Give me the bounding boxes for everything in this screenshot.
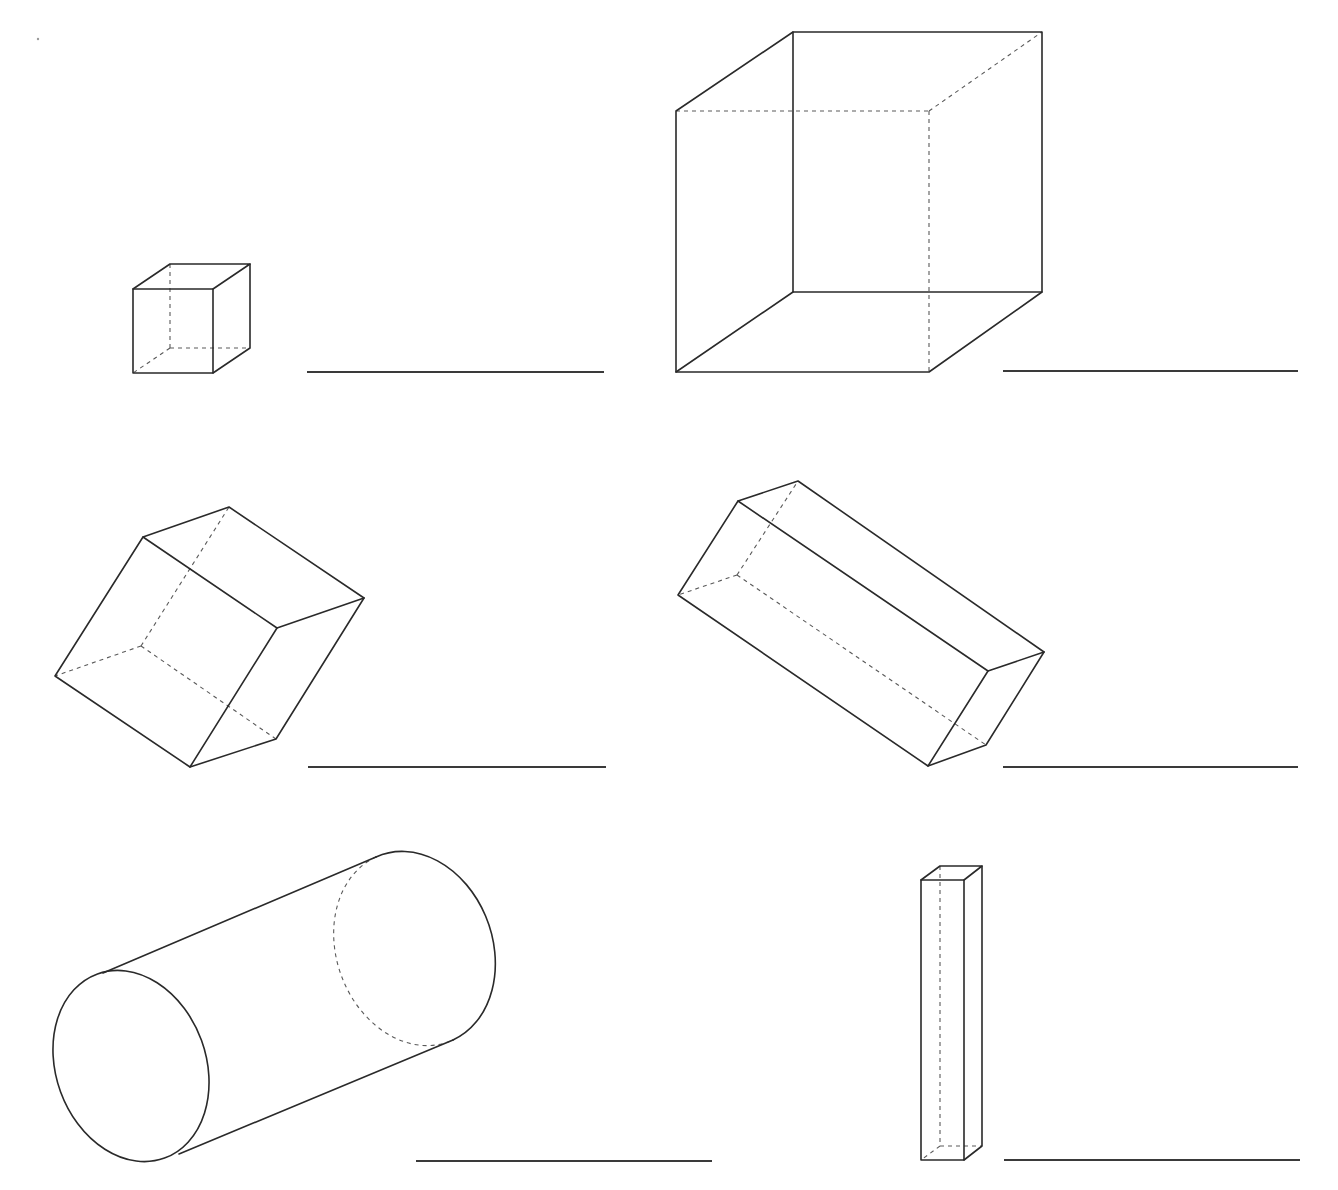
- stray-mark: [37, 38, 39, 40]
- worksheet-canvas: [0, 0, 1338, 1190]
- tall-prism-figure: [921, 866, 982, 1160]
- large-cube-figure: [676, 32, 1042, 372]
- tilted-cube-figure: [55, 507, 364, 767]
- tilted-prism-figure: [678, 481, 1044, 766]
- small-cube-figure: [133, 264, 250, 373]
- cylinder-figure: [27, 851, 495, 1183]
